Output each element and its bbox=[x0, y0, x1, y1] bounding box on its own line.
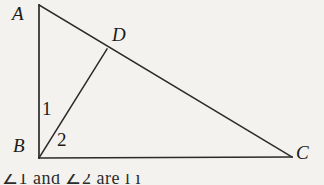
vertex-label-d: D bbox=[112, 25, 126, 44]
geometry-figure-container: A B C D 1 2 ∠1 and ∠2 are l i bbox=[0, 0, 324, 185]
segment-bc bbox=[39, 157, 292, 158]
vertex-label-b: B bbox=[13, 136, 25, 155]
segment-ac bbox=[39, 5, 292, 157]
triangle-diagram bbox=[0, 0, 324, 185]
vertex-label-a: A bbox=[12, 4, 24, 23]
angle-label-1: 1 bbox=[42, 99, 52, 118]
vertex-label-c: C bbox=[296, 143, 309, 162]
angle-label-2: 2 bbox=[57, 130, 67, 149]
